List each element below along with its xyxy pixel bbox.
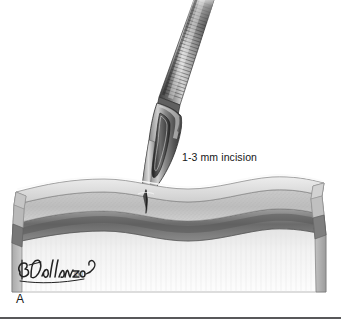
skin-cross-section bbox=[10, 175, 330, 293]
deep-tissue-hatch bbox=[12, 231, 326, 293]
scalpel bbox=[142, 0, 214, 197]
right-edge-dermis bbox=[311, 196, 324, 218]
illustration-canvas bbox=[0, 0, 341, 319]
right-edge-subcutaneous bbox=[313, 215, 326, 239]
scalpel-handle bbox=[159, 0, 214, 105]
panel-letter-label: A bbox=[16, 292, 24, 306]
medical-illustration-figure: 1-3 mm incision CMI A bbox=[0, 0, 341, 319]
left-edge-subcutaneous bbox=[12, 224, 23, 247]
signature-credential-text: CMI bbox=[74, 272, 83, 277]
incision-annotation-label: 1-3 mm incision bbox=[182, 151, 257, 163]
